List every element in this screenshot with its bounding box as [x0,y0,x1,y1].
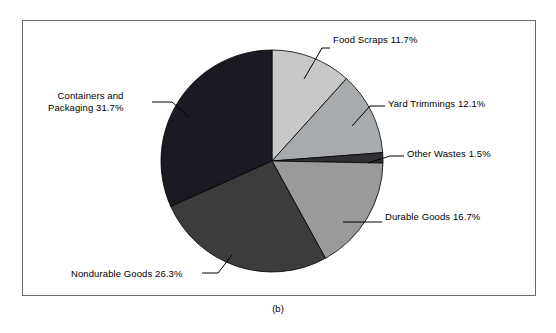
pie-label-food-scraps-text: Food Scraps 11.7% [333,34,417,46]
pie-label-yard-trimmings-text: Yard Trimmings 12.1% [388,98,485,110]
pie-label-containers-and-packaging: Containers and Packaging 31.7% [48,90,123,113]
pie-chart-canvas [0,0,556,333]
pie-label-other-wastes: Other Wastes 1.5% [407,148,491,160]
figure-root: Food Scraps 11.7% Yard Trimmings 12.1% O… [0,0,556,333]
pie-label-containers-line1: Containers and [48,90,123,102]
figure-caption: (b) [0,303,556,314]
pie-label-containers-line2: Packaging 31.7% [48,102,123,114]
pie-label-other-wastes-text: Other Wastes 1.5% [407,148,491,160]
pie-label-durable-goods: Durable Goods 16.7% [385,211,480,223]
pie-label-nondurable-goods: Nondurable Goods 26.3% [71,268,183,280]
pie-slice-group [161,50,383,272]
pie-label-nondurable-goods-text: Nondurable Goods 26.3% [71,268,183,280]
pie-label-yard-trimmings: Yard Trimmings 12.1% [388,98,485,110]
pie-label-durable-goods-text: Durable Goods 16.7% [385,211,480,223]
pie-label-food-scraps: Food Scraps 11.7% [333,34,417,46]
